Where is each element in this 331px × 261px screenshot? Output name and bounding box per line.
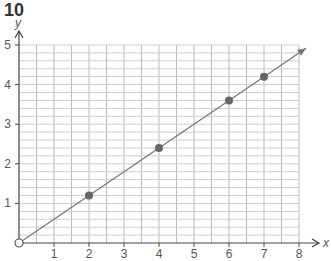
x-tick-label: 6 [226, 247, 233, 261]
y-tick-label: 3 [4, 117, 11, 131]
y-axis-label: y [14, 16, 22, 30]
y-tick-label: 2 [4, 157, 11, 171]
line-arrow-icon [297, 48, 306, 56]
x-tick-label: 1 [51, 247, 58, 261]
origin-marker [15, 239, 23, 247]
x-tick-label: 8 [296, 247, 303, 261]
x-tick-label: 4 [156, 247, 163, 261]
x-tick-label: 2 [86, 247, 93, 261]
x-axis-label: x [322, 236, 330, 250]
data-point [155, 144, 163, 152]
y-tick-label: 4 [4, 78, 11, 92]
data-point [85, 191, 93, 199]
data-point [225, 96, 233, 104]
data-point [260, 73, 268, 81]
x-tick-label: 5 [191, 247, 198, 261]
x-tick-label: 7 [261, 247, 268, 261]
y-tick-label: 1 [4, 196, 11, 210]
y-tick-label: 5 [4, 38, 11, 52]
x-tick-label: 3 [121, 247, 128, 261]
line-chart: 1234567812345xy [0, 0, 331, 261]
